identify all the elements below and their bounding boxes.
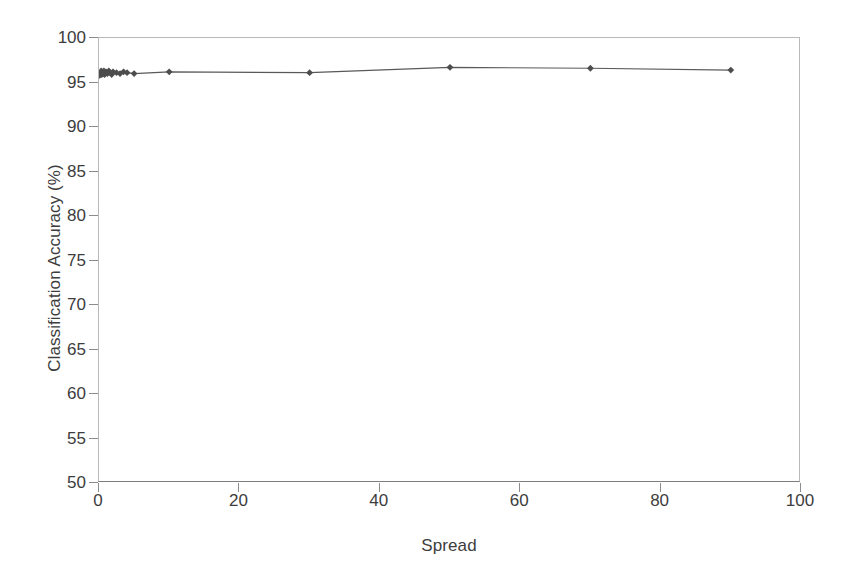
y-axis-tick bbox=[89, 349, 98, 350]
y-axis-tick bbox=[89, 215, 98, 216]
y-tick-label: 65 bbox=[40, 341, 86, 358]
y-tick-label: 60 bbox=[40, 385, 86, 402]
y-tick-label: 90 bbox=[40, 118, 86, 135]
data-point-marker bbox=[131, 70, 138, 77]
y-tick-label: 55 bbox=[40, 430, 86, 447]
y-axis-tick bbox=[89, 171, 98, 172]
y-tick-label: 100 bbox=[40, 29, 86, 46]
y-axis-tick bbox=[89, 304, 98, 305]
chart-figure: Classification Accuracy (%) 100 95 90 85… bbox=[0, 0, 843, 581]
x-axis-tick-labels: 0 20 40 60 80 100 bbox=[0, 492, 843, 518]
y-tick-label: 70 bbox=[40, 296, 86, 313]
y-axis-tick bbox=[89, 438, 98, 439]
y-axis-tick bbox=[89, 393, 98, 394]
x-tick-label: 80 bbox=[630, 492, 690, 509]
y-tick-label: 95 bbox=[40, 74, 86, 91]
y-axis-tick bbox=[89, 126, 98, 127]
y-axis-tick bbox=[89, 82, 98, 83]
x-axis-title: Spread bbox=[98, 536, 800, 556]
data-point-marker bbox=[447, 64, 454, 71]
series-line bbox=[100, 67, 731, 75]
y-axis-tick bbox=[89, 37, 98, 38]
x-tick-label: 40 bbox=[349, 492, 409, 509]
data-series-layer bbox=[99, 38, 801, 483]
y-axis-tick bbox=[89, 260, 98, 261]
y-tick-label: 80 bbox=[40, 207, 86, 224]
x-tick-label: 20 bbox=[208, 492, 268, 509]
plot-area bbox=[98, 37, 800, 482]
data-point-marker bbox=[727, 67, 734, 74]
x-tick-label: 100 bbox=[770, 492, 830, 509]
y-axis-tick bbox=[89, 482, 98, 483]
x-tick-label: 60 bbox=[489, 492, 549, 509]
data-point-marker bbox=[587, 65, 594, 72]
y-tick-label: 75 bbox=[40, 252, 86, 269]
data-point-marker bbox=[166, 68, 173, 75]
y-tick-label: 50 bbox=[40, 474, 86, 491]
y-tick-label: 85 bbox=[40, 163, 86, 180]
x-tick-label: 0 bbox=[68, 492, 128, 509]
data-point-marker bbox=[306, 69, 313, 76]
